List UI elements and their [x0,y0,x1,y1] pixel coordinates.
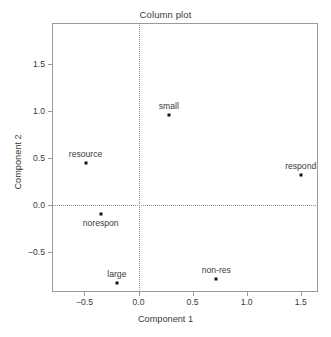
y-axis-tick-label: 1.5 [0,59,45,69]
plot-area: resourcesmallrespondnoresponlargenon-res [52,23,318,292]
x-axis-tick-label: −0.5 [76,297,93,307]
data-point [167,113,170,116]
x-axis-tick [193,292,194,296]
y-axis-tick [48,64,52,65]
x-axis-title: Component 1 [0,314,331,324]
x-axis-tick-label: 1.5 [295,297,307,307]
y-axis-tick [48,205,52,206]
data-point-label: small [159,101,179,111]
data-point-label: large [107,269,126,279]
data-point [299,173,302,176]
x-axis-tick-label: 0.0 [133,297,145,307]
data-point [115,281,118,284]
reference-line-vertical [139,23,140,292]
x-axis-tick [139,292,140,296]
data-point-label: non-res [202,265,231,275]
data-point [84,161,87,164]
chart-figure: Column plot resourcesmallrespondnorespon… [0,0,331,337]
y-axis-tick [48,158,52,159]
data-point-label: respond [285,161,316,171]
x-axis-tick-label: 1.0 [241,297,253,307]
reference-line-horizontal [52,205,318,206]
x-axis-tick-label: 0.5 [187,297,199,307]
y-axis-tick [48,111,52,112]
data-point [99,212,102,215]
y-axis-title: Component 2 [13,92,23,232]
chart-title: Column plot [0,9,331,20]
x-axis-tick [247,292,248,296]
y-axis-tick-label: −0.5 [0,247,45,257]
data-point-label: resource [69,149,102,159]
data-point [215,277,218,280]
data-point-label: norespon [83,218,119,228]
x-axis-tick [84,292,85,296]
y-axis-tick [48,252,52,253]
x-axis-tick [301,292,302,296]
